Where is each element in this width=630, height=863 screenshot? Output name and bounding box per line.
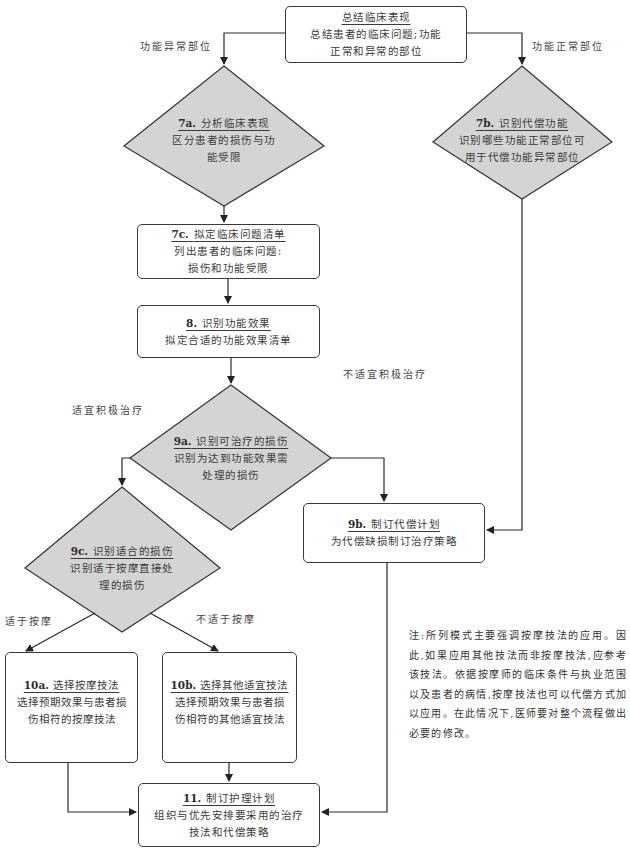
node-7b: 7b. 识别代偿功能 识别哪些功能正常部位可 用于代偿功能异常部位 [447,112,597,168]
node-7c-line-2: 损伤和功能受限 [188,260,269,277]
node-10b-line-1: 选择预期效果与患者损 [175,694,285,711]
node-9c-title: 识别适合的损伤 [93,545,174,557]
node-11: 11. 制订护理计划 组织与优先安排要采用的治疗 技法和代偿策略 [138,783,320,847]
node-11-line-1: 组织与优先安排要采用的治疗 [154,807,304,824]
node-9a-line-1: 识别为达到功能效果需 [174,450,289,467]
node-9a-number: 9a. [174,435,192,447]
summary-line-1: 总结患者的临床问题;功能 [310,26,442,43]
node-7c-line-1: 列出患者的临床问题: [174,243,283,260]
edge-label-active-not-ok: 不适宜积极治疗 [343,366,427,381]
edge-label-normal: 功能正常部位 [532,38,604,53]
node-10b-title: 选择其他适宜技法 [200,679,288,691]
node-9b-title: 制订代偿计划 [371,518,440,530]
node-9b-line-1: 为代偿缺损制订治疗策略 [331,533,458,550]
summary-title: 总结临床表现 [342,9,411,26]
node-10b-number: 10b. [171,679,197,691]
node-9c: 9c. 识别适合的损伤 识别适于按摩直接处 理的损伤 [52,540,192,596]
node-7a-title: 分析临床表现 [201,117,270,129]
edge-label-active-ok: 适宜积极治疗 [72,402,144,417]
node-7a-line-2: 能受限 [207,149,242,166]
edge-label-massage-ok: 适于按摩 [5,613,53,628]
node-7c-title: 拟定临床问题清单 [194,228,286,240]
node-10a: 10a. 选择按摩技法 选择预期效果与患者损 伤相符的按摩技法 [5,652,138,763]
node-8-number: 8. [186,317,197,329]
node-7b-line-2: 用于代偿功能异常部位 [465,149,580,166]
node-10b-line-2: 伤相符的其他适宜技法 [175,711,285,728]
node-10a-number: 10a. [24,679,49,691]
node-9a-title: 识别可治疗的损伤 [196,435,288,447]
node-7c: 7c. 拟定临床问题清单 列出患者的临床问题: 损伤和功能受限 [137,224,320,279]
node-10a-line-1: 选择预期效果与患者损 [17,694,127,711]
node-7b-number: 7b. [476,117,494,129]
node-8: 8. 识别功能效果 拟定合适的功能效果清单 [137,305,320,358]
node-8-title: 识别功能效果 [202,317,271,329]
node-9a-line-2: 处理的损伤 [202,467,260,484]
node-7a-number: 7a. [178,117,196,129]
node-9c-line-1: 识别适于按摩直接处 [70,560,174,577]
node-11-title: 制订护理计划 [206,792,275,804]
node-9c-number: 9c. [71,545,88,557]
edge-label-abnormal: 功能异常部位 [140,38,212,53]
node-7b-title: 识别代偿功能 [499,117,568,129]
node-10a-title: 选择按摩技法 [53,679,119,691]
node-7a-line-1: 区分患者的损伤与功 [172,132,276,149]
node-10a-line-2: 伤相符的按摩技法 [28,711,116,728]
node-7c-number: 7c. [171,228,188,240]
edge-label-massage-not-ok: 不适于按摩 [196,611,256,626]
node-8-line-1: 拟定合适的功能效果清单 [165,332,292,349]
node-11-line-2: 技法和代偿策略 [189,824,270,841]
node-9b: 9b. 制订代偿计划 为代偿缺损制订治疗策略 [303,503,485,563]
node-7a: 7a. 分析临床表现 区分患者的损伤与功 能受限 [154,110,294,170]
node-9b-number: 9b. [348,518,366,530]
node-11-number: 11. [183,792,201,804]
node-10b: 10b. 选择其他适宜技法 选择预期效果与患者损 伤相符的其他适宜技法 [162,652,297,763]
node-7b-line-1: 识别哪些功能正常部位可 [459,132,586,149]
node-9a: 9a. 识别可治疗的损伤 识别为达到功能效果需 处理的损伤 [161,430,301,486]
footnote: 注:所列模式主要强调按摩技法的应用。因此,如果应用其他技法而非按摩技法,应参考该… [409,626,627,743]
node-9c-line-2: 理的损伤 [99,577,145,594]
summary-box: 总结临床表现 总结患者的临床问题;功能 正常和异常的部位 [285,6,467,63]
summary-line-2: 正常和异常的部位 [330,43,422,60]
